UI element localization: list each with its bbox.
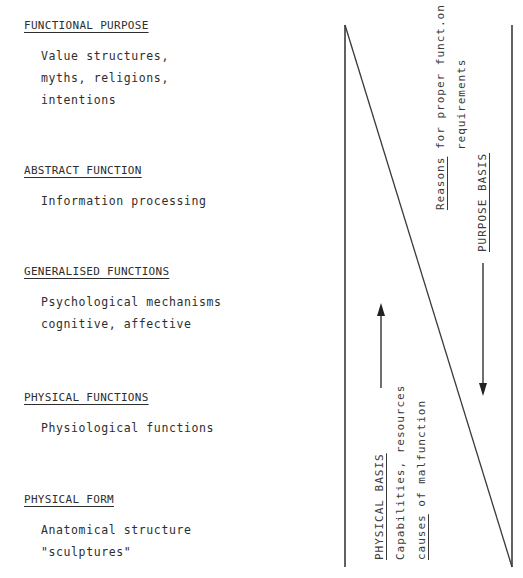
purpose-basis-heading: PURPOSE BASIS xyxy=(476,153,489,252)
physical-basis-label: PHYSICAL BASIS xyxy=(373,453,386,560)
purpose-reasons-text: Reasons for proper funct.on xyxy=(434,4,447,210)
diagonal-divider-line xyxy=(345,25,512,567)
physical-malfunction-text: causes of malfunction xyxy=(415,400,428,560)
malfunction-rest: of malfunction xyxy=(415,400,428,514)
reasons-rest: for proper funct.on xyxy=(434,4,447,156)
purpose-requirements-text: requirements xyxy=(455,59,468,150)
physical-capabilities-text: Capabilities, resources xyxy=(394,385,407,560)
purpose-basis-label: PURPOSE BASIS xyxy=(476,153,489,252)
causes-underlined: causes xyxy=(415,514,428,560)
physical-basis-heading: PHYSICAL BASIS xyxy=(373,453,386,560)
reasons-underlined: Reasons xyxy=(434,157,447,210)
arrow-down-icon xyxy=(479,263,487,396)
arrow-up-icon xyxy=(377,303,385,388)
